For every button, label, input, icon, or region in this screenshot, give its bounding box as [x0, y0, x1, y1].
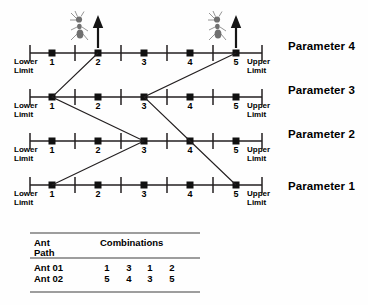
axis-1-tick-3: 3: [137, 190, 151, 199]
table-row-ant-01-value-2: 3: [123, 263, 135, 273]
table-row-ant-02-value-3: 3: [144, 274, 156, 284]
table-header-combinations: Combinations: [100, 237, 163, 249]
axis-4-tick-1: 1: [45, 58, 59, 67]
table-row-ant-01-value-3: 1: [144, 263, 156, 273]
figure-canvas: 1 2 3 4 5 Lower Limit Upper Limit Parame…: [0, 0, 368, 305]
axis-1-tick-4: 4: [183, 190, 197, 199]
axis-3-tick-1: 1: [45, 102, 59, 111]
axis-4-upper-limit-label: Upper Limit: [247, 58, 270, 76]
axis-2-lower-limit-label: Lower Limit: [14, 146, 38, 164]
table-row-ant-02-value-1: 5: [101, 274, 113, 284]
axis-3-tick-5: 5: [229, 102, 243, 111]
ant-02-path: [144, 53, 236, 185]
axis-1-title: Parameter 1: [288, 180, 355, 192]
ant-icon-left: [70, 11, 88, 40]
ant-icon-right: [208, 11, 226, 40]
arrow-up-icon-right: [231, 15, 241, 48]
axis-2-tick-4: 4: [183, 146, 197, 155]
axis-2-upper-limit-label: Upper Limit: [247, 146, 270, 164]
table-row-ant-01-value-4: 2: [166, 263, 178, 273]
axis-3-tick-2: 2: [91, 102, 105, 111]
axis-1-tick-1: 1: [45, 190, 59, 199]
axis-4-tick-3: 3: [137, 58, 151, 67]
table-row-ant-01-name: Ant 01: [34, 263, 63, 273]
axis-4-tick-5: 5: [229, 58, 243, 67]
ant-01-path: [52, 53, 144, 185]
table-row-ant-01-value-1: 1: [101, 263, 113, 273]
axis-1-lower-limit-label: Lower Limit: [14, 190, 38, 208]
axis-4-tick-4: 4: [183, 58, 197, 67]
axis-4-title: Parameter 4: [288, 40, 355, 52]
axis-2-tick-5: 5: [229, 146, 243, 155]
axis-1-tick-2: 2: [91, 190, 105, 199]
arrow-up-icon-left: [93, 15, 103, 48]
axis-3-tick-3: 3: [137, 102, 151, 111]
axis-1-upper-limit-label: Upper Limit: [247, 190, 270, 208]
axis-4-lower-limit-label: Lower Limit: [14, 58, 38, 76]
axis-3-tick-4: 4: [183, 102, 197, 111]
table-row-ant-02-value-4: 5: [166, 274, 178, 284]
axis-2-title: Parameter 2: [288, 128, 355, 140]
axis-2-tick-3: 3: [137, 146, 151, 155]
axis-3-title: Parameter 3: [288, 84, 355, 96]
table-row-ant-02-name: Ant 02: [34, 274, 63, 284]
axis-2-tick-1: 1: [45, 146, 59, 155]
axis-4-tick-2: 2: [91, 58, 105, 67]
table-header-path: Path: [34, 247, 55, 259]
axis-2-tick-2: 2: [91, 146, 105, 155]
table-row-ant-02-value-2: 4: [123, 274, 135, 284]
axis-3-lower-limit-label: Lower Limit: [14, 102, 38, 120]
axis-3-upper-limit-label: Upper Limit: [247, 102, 270, 120]
axis-1-tick-5: 5: [229, 190, 243, 199]
